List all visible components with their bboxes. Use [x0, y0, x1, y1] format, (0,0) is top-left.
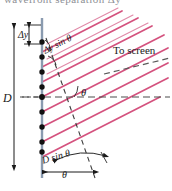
label-theta-bottom: θ: [62, 169, 67, 180]
label-D: D: [3, 91, 12, 106]
label-theta-middle: θ: [81, 87, 86, 98]
label-delta-y: Δy: [18, 29, 28, 40]
pink-wavefront-rays: [42, 11, 168, 157]
figure-canvas: wavefront separation Δy: [0, 0, 172, 191]
brace-end-tick: [101, 152, 107, 163]
label-to-screen: To screen: [113, 44, 155, 56]
